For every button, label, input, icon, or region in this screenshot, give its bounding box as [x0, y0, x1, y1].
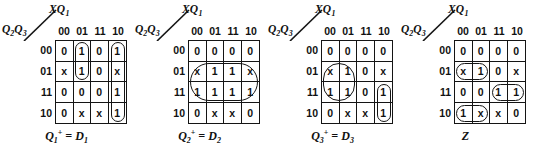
column-variable-label: XQ1 [182, 3, 203, 15]
kmap-caption-map-q3: Q3+ = D3 [266, 129, 399, 144]
kmap-cell-r3-c2: x [91, 103, 109, 124]
kmap-cell-r2-c0: 1 [322, 82, 340, 103]
column-variable-subscript: 1 [464, 9, 468, 18]
row-header-10-3: 10 [293, 103, 318, 124]
kmap-cell-r1-c2: 0 [490, 62, 508, 83]
row-header-column: 00011110 [426, 40, 451, 124]
kmap-cell-r0-c3: 0 [508, 41, 526, 62]
caption-rhs-subscript: 3 [350, 136, 354, 145]
kmap-body-map-q3: XQ1Q2Q300011110000111100000x10x11010xx1Q… [266, 0, 399, 153]
caption-rhs-subscript: 1 [84, 136, 88, 145]
kmap-grid-map-q1: 0101x10x00010xx1 [55, 40, 127, 124]
row-header-11-2: 11 [426, 82, 451, 103]
kmap-cell-r2-c1: 0 [473, 82, 491, 103]
row-header-00-0: 00 [293, 40, 318, 61]
kmap-body-map-z: XQ1Q2Q300011110000111100000x10x00111xx0Z [399, 0, 532, 153]
row-header-10-3: 10 [426, 103, 451, 124]
kmap-cell-r3-c3: 0 [508, 103, 526, 124]
kmap-cell-r0-c1: 1 [74, 41, 92, 62]
kmap-figure: XQ1Q2Q300011110000111100101x10x00010xx1Q… [0, 0, 533, 153]
kmap-cell-r2-c1: 1 [207, 82, 225, 103]
kmap-cell-r1-c1: 1 [473, 62, 491, 83]
column-header-00-0: 00 [188, 25, 206, 38]
kmap-cell-r0-c0: 0 [189, 41, 207, 62]
kmap-cell-r2-c2: 1 [490, 82, 508, 103]
kmap-cell-r0-c0: 0 [56, 41, 74, 62]
kmap-cell-r1-c1: 1 [340, 62, 358, 83]
caption-rhs-subscript: 2 [217, 136, 221, 145]
kmap-grid-map-q3: 0000x10x11010xx1 [321, 40, 393, 124]
kmap-cell-r2-c2: 1 [224, 82, 242, 103]
kmap-grid-map-z: 0000x10x00111xx0 [454, 40, 526, 124]
kmap-cell-r2-c0: 1 [189, 82, 207, 103]
kmap-cell-r1-c3: x [508, 62, 526, 83]
column-header-10-3: 10 [242, 25, 260, 38]
kmap-caption-map-q1: Q1+ = D1 [0, 129, 133, 144]
column-header-row: 00011110 [188, 25, 260, 38]
row-header-00-0: 00 [426, 40, 451, 61]
column-variable-label: XQ1 [315, 3, 336, 15]
kmap-cell-r0-c0: 0 [455, 41, 473, 62]
row-header-00-0: 00 [27, 40, 52, 61]
kmap-cell-r0-c1: 0 [473, 41, 491, 62]
column-header-00-0: 00 [321, 25, 339, 38]
column-header-10-3: 10 [508, 25, 526, 38]
row-header-01-1: 01 [27, 61, 52, 82]
row-variable-subscript-a: 2 [409, 29, 413, 38]
kmap-cell-r0-c2: 0 [224, 41, 242, 62]
kmap-cell-r0-c3: 1 [109, 41, 127, 62]
row-header-11-2: 11 [27, 82, 52, 103]
kmap-cell-r2-c3: 1 [375, 82, 393, 103]
row-header-01-1: 01 [426, 61, 451, 82]
kmap-cell-r2-c3: 1 [242, 82, 260, 103]
kmap-cell-r2-c3: 1 [109, 82, 127, 103]
caption-superscript: + [324, 128, 329, 137]
kmap-cell-r3-c1: x [74, 103, 92, 124]
column-header-01-1: 01 [73, 25, 91, 38]
kmap-cell-r3-c0: 0 [189, 103, 207, 124]
kmap-map-q3: XQ1Q2Q300011110000111100000x10x11010xx1Q… [266, 0, 399, 153]
row-header-01-1: 01 [293, 61, 318, 82]
kmap-cell-r2-c0: 0 [455, 82, 473, 103]
row-variable-subscript-b: 3 [156, 29, 160, 38]
column-variable-label: XQ1 [448, 3, 469, 15]
kmap-cell-r1-c0: x [189, 62, 207, 83]
kmap-cell-r3-c0: 0 [322, 103, 340, 124]
kmap-cell-r1-c0: x [322, 62, 340, 83]
row-header-11-2: 11 [160, 82, 185, 103]
caption-superscript: + [191, 128, 196, 137]
row-variable-label: Q2Q3 [401, 23, 426, 35]
column-header-00-0: 00 [55, 25, 73, 38]
column-variable-subscript: 1 [198, 9, 202, 18]
row-variable-subscript-a: 2 [10, 29, 14, 38]
column-header-11-2: 11 [490, 25, 508, 38]
row-header-00-0: 00 [160, 40, 185, 61]
kmap-cell-r2-c2: 0 [357, 82, 375, 103]
kmap-cell-r1-c3: x [375, 62, 393, 83]
column-header-11-2: 11 [224, 25, 242, 38]
column-variable-subscript: 1 [331, 9, 335, 18]
column-variable-subscript: 1 [65, 9, 69, 18]
column-header-01-1: 01 [472, 25, 490, 38]
kmap-cell-r1-c1: 1 [74, 62, 92, 83]
kmap-cell-r1-c2: 1 [224, 62, 242, 83]
kmap-body-map-q2: XQ1Q2Q300011110000111100000x11x11110xx0Q… [133, 0, 266, 153]
column-header-01-1: 01 [339, 25, 357, 38]
kmap-cell-r3-c2: x [224, 103, 242, 124]
kmap-cell-r1-c0: x [455, 62, 473, 83]
kmap-grid-map-q2: 0000x11x11110xx0 [188, 40, 260, 124]
kmap-cell-r0-c1: 0 [207, 41, 225, 62]
kmap-map-q1: XQ1Q2Q300011110000111100101x10x00010xx1Q… [0, 0, 133, 153]
row-variable-subscript-a: 2 [143, 29, 147, 38]
column-header-10-3: 10 [375, 25, 393, 38]
kmap-map-q2: XQ1Q2Q300011110000111100000x11x11110xx0Q… [133, 0, 266, 153]
column-header-01-1: 01 [206, 25, 224, 38]
row-header-01-1: 01 [160, 61, 185, 82]
kmap-cell-r0-c0: 0 [322, 41, 340, 62]
row-variable-subscript-b: 3 [23, 29, 27, 38]
kmap-cell-r0-c2: 0 [91, 41, 109, 62]
kmap-cell-r3-c2: x [490, 103, 508, 124]
row-variable-subscript-a: 2 [276, 29, 280, 38]
column-header-row: 00011110 [321, 25, 393, 38]
kmap-body-map-q1: XQ1Q2Q300011110000111100101x10x00010xx1Q… [0, 0, 133, 153]
